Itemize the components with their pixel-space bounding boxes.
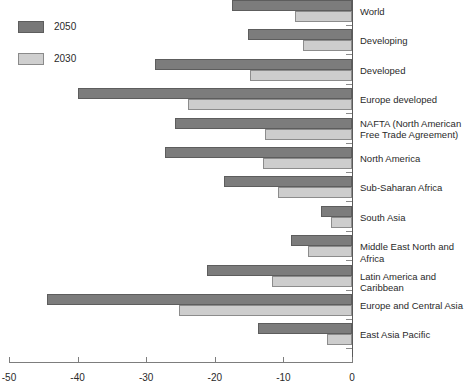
axis-tick xyxy=(9,357,10,362)
category-label: NAFTA (North American Free Trade Agreeme… xyxy=(360,118,461,141)
bar-2050 xyxy=(175,118,352,129)
axis-tick-label: 0 xyxy=(349,372,355,384)
bar-group xyxy=(0,56,352,85)
x-axis-line xyxy=(9,362,353,363)
category-label: North America xyxy=(360,153,420,165)
bar-group xyxy=(0,203,352,232)
axis-tick-label: -20 xyxy=(208,372,222,384)
bar-2030 xyxy=(308,246,352,257)
bar-group xyxy=(0,85,352,114)
axis-tick xyxy=(352,357,353,362)
zero-axis-line xyxy=(352,0,353,362)
bar-2030 xyxy=(272,276,352,287)
axis-tick-label: -40 xyxy=(70,372,84,384)
bar-2050 xyxy=(321,206,352,217)
bar-2050 xyxy=(248,29,352,40)
category-label: Developed xyxy=(360,65,405,77)
axis-tick xyxy=(78,357,79,362)
category-label: Middle East North and Africa xyxy=(360,241,475,264)
bar-group xyxy=(0,232,352,261)
bar-group xyxy=(0,26,352,55)
category-label: World xyxy=(360,6,385,18)
bar-chart: 2050 2030 -50-40-30-20-100 WorldDevelopi… xyxy=(0,0,475,392)
bar-2030 xyxy=(179,305,352,316)
axis-tick-label: -30 xyxy=(139,372,153,384)
bar-group xyxy=(0,320,352,349)
bar-group xyxy=(0,0,352,26)
bar-2050 xyxy=(207,265,352,276)
bar-group xyxy=(0,262,352,291)
category-label: Developing xyxy=(360,35,408,47)
axis-tick-label: -50 xyxy=(2,372,16,384)
bar-2050 xyxy=(224,176,352,187)
bar-group xyxy=(0,115,352,144)
bar-2030 xyxy=(303,40,352,51)
category-label: South Asia xyxy=(360,212,405,224)
axis-tick xyxy=(283,357,284,362)
bar-2030 xyxy=(265,129,352,140)
category-label: Europe and Central Asia xyxy=(360,300,463,312)
category-label: Latin America and Caribbean xyxy=(360,271,475,294)
category-label: East Asia Pacific xyxy=(360,329,430,341)
axis-tick xyxy=(146,357,147,362)
bar-2050 xyxy=(155,59,352,70)
bar-2030 xyxy=(295,11,352,22)
bar-2050 xyxy=(291,235,352,246)
bar-2050 xyxy=(232,0,352,11)
bar-group xyxy=(0,291,352,320)
bar-2030 xyxy=(278,187,352,198)
bar-2030 xyxy=(188,99,352,110)
bar-2030 xyxy=(263,158,352,169)
axis-tick xyxy=(215,357,216,362)
bar-2030 xyxy=(250,70,352,81)
axis-tick-label: -10 xyxy=(276,372,290,384)
bar-2050 xyxy=(78,88,352,99)
category-label: Sub-Saharan Africa xyxy=(360,182,442,194)
bar-2030 xyxy=(331,217,352,228)
category-label: Europe developed xyxy=(360,94,437,106)
bar-group xyxy=(0,173,352,202)
bar-2050 xyxy=(165,147,352,158)
bar-2050 xyxy=(258,323,352,334)
axis-minor-tick xyxy=(346,348,352,349)
bar-group xyxy=(0,144,352,173)
bar-2050 xyxy=(47,294,352,305)
bar-2030 xyxy=(327,334,352,345)
